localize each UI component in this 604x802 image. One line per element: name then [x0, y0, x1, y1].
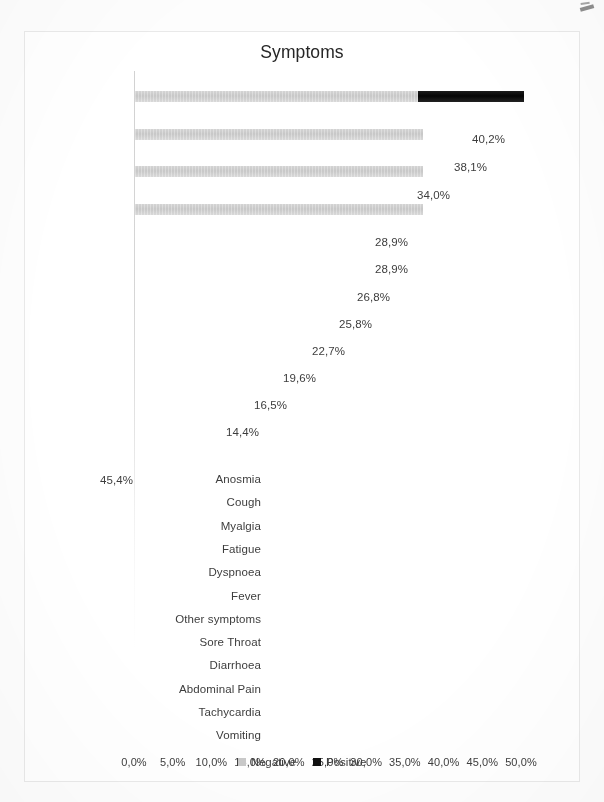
category-label: Vomiting — [216, 729, 261, 741]
data-label: 28,9% — [375, 263, 408, 275]
category-label: Myalgia — [221, 520, 261, 532]
data-label: 34,0% — [417, 189, 450, 201]
data-label: 25,8% — [339, 318, 372, 330]
chart-container: Symptoms 45,4%40,2%38,1%34,0%28,9%28,9%2… — [24, 31, 580, 782]
data-label: 26,8% — [357, 291, 390, 303]
category-label: Fever — [231, 590, 261, 602]
scanned-page: Symptoms 45,4%40,2%38,1%34,0%28,9%28,9%2… — [0, 0, 604, 802]
plot-area: 45,4%40,2%38,1%34,0%28,9%28,9%26,8%25,8%… — [134, 71, 528, 737]
legend-item-negative: Negative — [238, 756, 296, 768]
category-label-group: AnosmiaCoughMyalgiaFatigueDyspnoeaFeverO… — [134, 71, 261, 737]
chart-legend: Negative Positive — [25, 756, 579, 768]
data-label: 22,7% — [312, 345, 345, 357]
scan-artifact-mark — [580, 4, 595, 12]
category-label: Other symptoms — [175, 613, 261, 625]
legend-item-positive: Positive — [313, 756, 366, 768]
data-label: 38,1% — [454, 161, 487, 173]
legend-swatch-positive-icon — [313, 758, 321, 766]
legend-label-negative: Negative — [251, 756, 296, 768]
category-label: Sore Throat — [199, 636, 261, 648]
data-label: 45,4% — [100, 474, 133, 486]
legend-label-positive: Positive — [326, 756, 366, 768]
category-label: Abdominal Pain — [179, 683, 261, 695]
category-label: Diarrhoea — [210, 659, 261, 671]
chart-title: Symptoms — [25, 42, 579, 63]
category-label: Anosmia — [216, 473, 261, 485]
legend-swatch-negative-icon — [238, 758, 246, 766]
category-label: Dyspnoea — [208, 566, 261, 578]
bar-segment-positive — [418, 91, 524, 102]
category-label: Cough — [227, 496, 261, 508]
data-label: 28,9% — [375, 236, 408, 248]
category-label: Fatigue — [222, 543, 261, 555]
data-label: 19,6% — [283, 372, 316, 384]
category-label: Tachycardia — [199, 706, 261, 718]
data-label: 40,2% — [472, 133, 505, 145]
